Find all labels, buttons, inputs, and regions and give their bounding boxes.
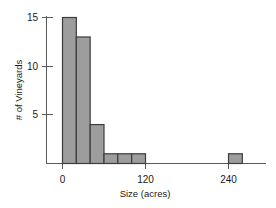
- x-tick-label-120: 120: [137, 174, 154, 185]
- histogram-bar: [132, 154, 146, 164]
- x-tick-label-240: 240: [220, 174, 237, 185]
- histogram-bar: [76, 37, 90, 164]
- chart-canvas: 15 10 5 0 120 240 Size (acres) # of Vine…: [0, 0, 276, 208]
- y-tick-label-10: 10: [27, 61, 39, 72]
- histogram-bar: [229, 154, 243, 164]
- histogram-bar: [90, 125, 104, 164]
- histogram-figure: 15 10 5 0 120 240 Size (acres) # of Vine…: [0, 0, 276, 208]
- y-tick-label-5: 5: [32, 109, 38, 120]
- x-axis-title: Size (acres): [120, 188, 171, 199]
- histogram-bar: [63, 18, 77, 164]
- histogram-bar: [118, 154, 132, 164]
- histogram-bar: [104, 154, 118, 164]
- x-tick-label-0: 0: [60, 174, 66, 185]
- y-axis-title: # of Vineyards: [13, 59, 24, 120]
- histogram-bars: [63, 18, 243, 164]
- y-tick-label-15: 15: [27, 12, 39, 23]
